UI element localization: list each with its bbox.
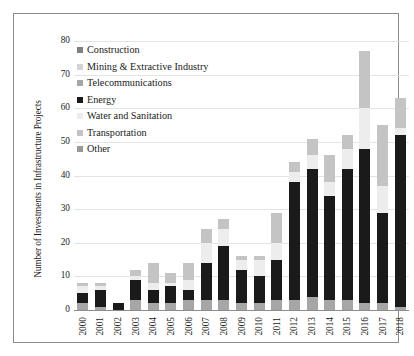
bar-segment — [77, 303, 88, 310]
legend-swatch-icon — [77, 64, 83, 70]
legend-label: Energy — [87, 95, 116, 105]
legend-swatch-icon — [77, 146, 83, 152]
bar-2013 — [307, 139, 318, 310]
bar-2014 — [324, 155, 335, 310]
y-axis-title: Number of Investments in Infrastructure … — [30, 69, 46, 309]
x-axis-tick-label: 2007 — [201, 317, 211, 336]
bar-segment — [130, 270, 141, 277]
x-axis-tick-label: 2018 — [395, 317, 405, 336]
bar-segment — [289, 182, 300, 300]
x-axis-tick-2007: 2007 — [201, 315, 212, 355]
bar-segment — [254, 303, 265, 310]
bar-segment — [395, 135, 406, 306]
bar-2002 — [113, 303, 124, 310]
bar-2001 — [95, 283, 106, 310]
legend-item-water-and-sanitation: Water and Sanitation — [77, 108, 307, 125]
bar-segment — [165, 303, 176, 310]
bar-segment — [77, 286, 88, 293]
x-axis-tick-2013: 2013 — [307, 315, 318, 355]
bar-segment — [377, 303, 388, 310]
x-axis-tick-2016: 2016 — [359, 315, 370, 355]
bar-segment — [342, 300, 353, 310]
x-axis-tick-label: 2016 — [360, 317, 370, 336]
legend-swatch-icon — [77, 47, 83, 53]
legend-label: Other — [87, 144, 110, 154]
bar-2012 — [289, 162, 300, 310]
legend-swatch-icon — [77, 97, 83, 103]
chart-legend: ConstructionMining & Extractive Industry… — [77, 42, 307, 158]
bar-segment — [324, 196, 335, 300]
bar-segment — [271, 300, 282, 310]
bar-segment — [289, 172, 300, 182]
bar-segment — [130, 300, 141, 310]
legend-item-telecommunications: Telecommunications — [77, 75, 307, 92]
x-axis-tick-2000: 2000 — [77, 315, 88, 355]
bar-segment — [289, 300, 300, 310]
bar-segment — [148, 263, 159, 283]
bar-segment — [201, 229, 212, 242]
x-axis-tick-2003: 2003 — [130, 315, 141, 355]
x-axis-tick-2005: 2005 — [165, 315, 176, 355]
bar-2000 — [77, 283, 88, 310]
x-axis-tick-2009: 2009 — [236, 315, 247, 355]
x-axis-tick-2018: 2018 — [395, 315, 406, 355]
bar-2015 — [342, 135, 353, 310]
bar-2017 — [377, 125, 388, 310]
x-axis-tick-2004: 2004 — [148, 315, 159, 355]
legend-item-construction: Construction — [77, 42, 307, 59]
bar-segment — [377, 125, 388, 186]
bar-segment — [342, 135, 353, 148]
bar-segment — [236, 303, 247, 310]
bar-segment — [359, 51, 370, 108]
x-axis-tick-label: 2003 — [131, 317, 141, 336]
bar-segment — [165, 286, 176, 303]
x-axis-tick-label: 2002 — [113, 317, 123, 336]
bar-segment — [307, 297, 318, 310]
legend-swatch-icon — [77, 80, 83, 86]
bar-segment — [95, 290, 106, 307]
bar-segment — [95, 307, 106, 310]
x-axis-tick-label: 2017 — [378, 317, 388, 336]
x-axis-tick-2008: 2008 — [218, 315, 229, 355]
bar-segment — [148, 303, 159, 310]
bar-2006 — [183, 263, 194, 310]
bar-segment — [324, 155, 335, 182]
y-axis-tick-label: 70 — [46, 70, 70, 79]
bar-2007 — [201, 229, 212, 310]
bar-segment — [271, 243, 282, 260]
x-axis-tick-label: 2012 — [289, 317, 299, 336]
bar-segment — [342, 169, 353, 300]
x-axis-tick-2015: 2015 — [342, 315, 353, 355]
bar-segment — [218, 219, 229, 229]
bar-segment — [342, 149, 353, 169]
legend-item-energy: Energy — [77, 92, 307, 109]
legend-label: Mining & Extractive Industry — [87, 62, 208, 72]
legend-label: Transportation — [87, 128, 147, 138]
bar-segment — [236, 260, 247, 270]
x-axis-tick-2006: 2006 — [183, 315, 194, 355]
bar-2008 — [218, 219, 229, 310]
y-axis-tick-label: 60 — [46, 104, 70, 113]
x-axis-tick-label: 2011 — [272, 317, 282, 335]
x-axis-tick-label: 2006 — [184, 317, 194, 336]
bar-2016 — [359, 51, 370, 310]
x-axis-tick-2010: 2010 — [254, 315, 265, 355]
bar-segment — [254, 260, 265, 277]
x-axis-tick-2002: 2002 — [113, 315, 124, 355]
bar-segment — [201, 243, 212, 263]
x-axis-tick-label: 2013 — [307, 317, 317, 336]
legend-label: Telecommunications — [87, 78, 172, 88]
x-axis-tick-label: 2004 — [148, 317, 158, 336]
bar-segment — [359, 149, 370, 304]
bar-2003 — [130, 270, 141, 310]
bar-2010 — [254, 256, 265, 310]
legend-swatch-icon — [77, 113, 83, 119]
bar-segment — [183, 290, 194, 300]
y-axis-tick-label: 80 — [46, 36, 70, 45]
bar-segment — [377, 186, 388, 213]
x-axis-tick-label: 2000 — [78, 317, 88, 336]
bar-segment — [130, 280, 141, 300]
x-axis-tick-2001: 2001 — [95, 315, 106, 355]
bar-2018 — [395, 98, 406, 310]
legend-item-other: Other — [77, 141, 307, 158]
